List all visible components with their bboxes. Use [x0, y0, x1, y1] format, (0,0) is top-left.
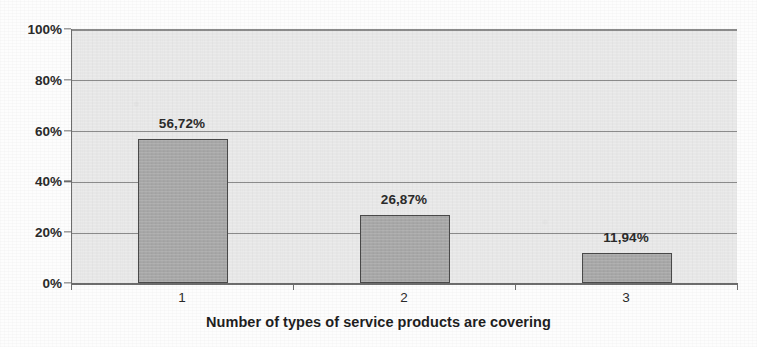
y-axis-tickmark: [64, 79, 71, 80]
bar-3[interactable]: [582, 253, 672, 283]
y-axis-tickmark: [64, 181, 71, 182]
y-axis-tickmark: [64, 232, 71, 233]
x-axis-category-label-2: 2: [400, 290, 408, 305]
y-axis-tick-label: 60%: [0, 123, 62, 138]
y-axis-tick-label: 40%: [0, 174, 62, 189]
y-axis-tick-label: 20%: [0, 225, 62, 240]
x-axis-tickmark: [737, 283, 738, 290]
x-axis-title: Number of types of service products are …: [0, 314, 757, 330]
bar-chart-figure: 0%20%40%60%80%100% 123 Number of types o…: [0, 0, 757, 347]
gridline: [72, 283, 737, 284]
x-axis-category-label-3: 3: [622, 290, 630, 305]
x-axis-tickmark: [71, 283, 72, 290]
x-axis-tickmark: [515, 283, 516, 290]
bar-value-label-3: 11,94%: [566, 230, 686, 245]
x-axis-category-label-1: 1: [178, 290, 186, 305]
y-axis-tickmark: [64, 282, 71, 283]
y-axis-tickmark: [64, 28, 71, 29]
x-axis-tickmark: [293, 283, 294, 290]
bar-1[interactable]: [138, 139, 228, 283]
plot-area: [71, 29, 737, 283]
bar-2[interactable]: [360, 215, 450, 283]
gridline: [72, 80, 737, 81]
y-axis-tick-label: 100%: [0, 22, 62, 37]
y-axis-tickmark: [64, 130, 71, 131]
gridline: [72, 131, 737, 132]
y-axis-tick-label: 80%: [0, 72, 62, 87]
gridline: [72, 29, 737, 30]
bar-value-label-2: 26,87%: [344, 192, 464, 207]
y-axis-tick-label: 0%: [0, 276, 62, 291]
bar-value-label-1: 56,72%: [122, 116, 242, 131]
